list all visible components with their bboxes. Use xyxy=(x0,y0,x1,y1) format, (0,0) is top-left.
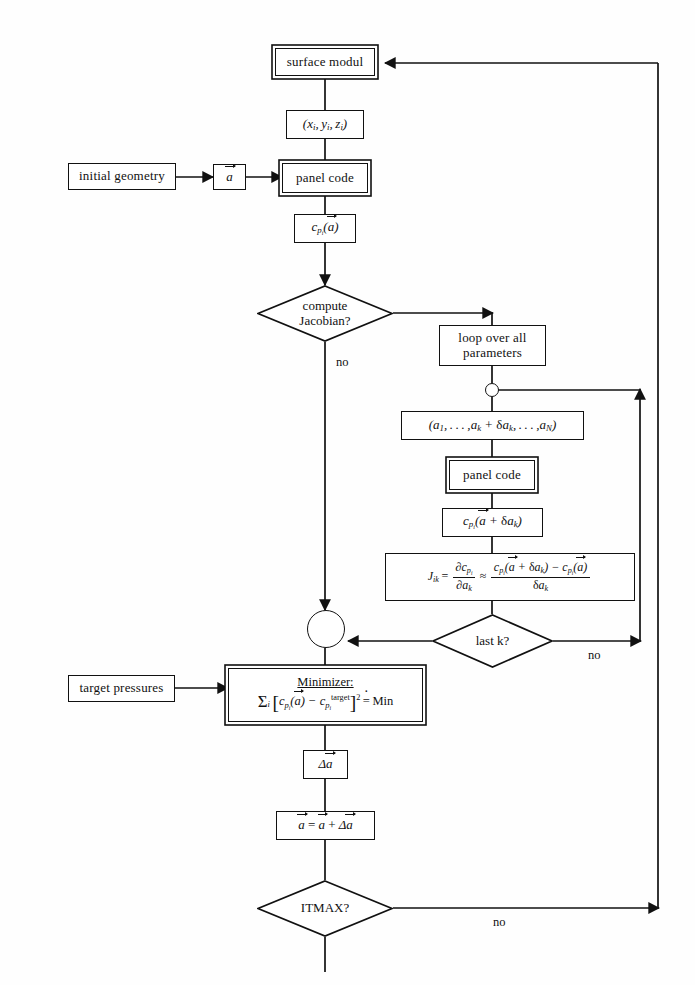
node-compute-jacobian-decision[interactable]: compute Jacobian? xyxy=(257,285,393,342)
edge-label-itmax-no: no xyxy=(493,915,506,930)
minimizer-title: Minimizer: xyxy=(297,675,353,689)
update-design-vector-formula: a = a + Δa xyxy=(298,818,353,833)
node-update-design-vector[interactable]: a = a + Δa xyxy=(276,811,375,840)
jacobian-formula-expression: Jik = ∂cpi∂ak ≈ cpi(a + δak) − cpi(a)δak xyxy=(428,561,593,594)
compute-jacobian-label: compute Jacobian? xyxy=(257,285,393,342)
pressure-coefficients-formula: cpi(a) xyxy=(311,220,338,237)
node-perturbed-parameter-vector[interactable]: (a1, . . . ,ak + δak, . . . ,aN) xyxy=(401,411,584,440)
node-surface-coordinates[interactable]: (xi, yi, zi) xyxy=(286,110,364,139)
perturbed-pressure-coefficients-formula: cpi(a + δak) xyxy=(463,514,522,531)
junction-loop-entry xyxy=(485,383,499,397)
node-minimizer[interactable]: Minimizer: Σi [cpi(a) − cpitarget]2 = Mi… xyxy=(228,668,423,722)
minimizer-content: Minimizer: Σi [cpi(a) − cpitarget]2 = Mi… xyxy=(258,675,393,715)
compute-jacobian-line1: compute xyxy=(303,299,348,314)
edge-label-last-k-no: no xyxy=(588,648,601,663)
node-initial-geometry[interactable]: initial geometry xyxy=(68,163,176,190)
target-pressures-label: target pressures xyxy=(74,681,168,696)
node-jacobian-formula[interactable]: Jik = ∂cpi∂ak ≈ cpi(a + δak) − cpi(a)δak xyxy=(385,553,635,601)
node-last-k-decision[interactable]: last k? xyxy=(432,614,553,668)
last-k-label: last k? xyxy=(432,614,553,668)
surface-coordinates-formula: (xi, yi, zi) xyxy=(303,117,347,133)
node-panel-code-secondary[interactable]: panel code xyxy=(449,460,535,490)
perturbed-parameter-vector-formula: (a1, . . . ,ak + δak, . . . ,aN) xyxy=(429,418,557,434)
edge-label-jacobian-no: no xyxy=(336,355,349,370)
junction-merge-paths xyxy=(307,610,345,648)
initial-geometry-label: initial geometry xyxy=(74,169,170,184)
panel-code-secondary-label: panel code xyxy=(458,468,526,483)
last-k-line1: last k? xyxy=(476,634,510,649)
loop-over-parameters-label: loop over all parameters xyxy=(453,331,531,361)
design-vector-a-symbol: a xyxy=(226,170,233,185)
minimizer-formula-expression: Σi [cpi(a) − cpitarget]2 = Min xyxy=(258,692,393,715)
itmax-label: ITMAX? xyxy=(257,880,393,937)
node-perturbed-pressure-coefficients[interactable]: cpi(a + δak) xyxy=(442,508,543,537)
delta-a-symbol: Δa xyxy=(318,757,332,772)
flowchart-canvas: surface modul (xi, yi, zi) initial geome… xyxy=(0,0,695,985)
loop-over-parameters-line2: parameters xyxy=(463,345,522,360)
loop-over-parameters-line1: loop over all xyxy=(458,330,526,345)
compute-jacobian-line2: Jacobian? xyxy=(299,314,350,329)
node-target-pressures[interactable]: target pressures xyxy=(68,675,175,702)
node-loop-over-parameters[interactable]: loop over all parameters xyxy=(439,325,546,366)
surface-modul-label: surface modul xyxy=(282,55,369,70)
itmax-line1: ITMAX? xyxy=(301,901,349,916)
node-panel-code-primary[interactable]: panel code xyxy=(282,163,368,193)
node-surface-modul[interactable]: surface modul xyxy=(275,48,375,76)
node-delta-a[interactable]: Δa xyxy=(303,750,348,779)
node-itmax-decision[interactable]: ITMAX? xyxy=(257,880,393,937)
node-pressure-coefficients[interactable]: cpi(a) xyxy=(294,214,356,243)
node-design-vector-a[interactable]: a xyxy=(213,164,246,190)
panel-code-primary-label: panel code xyxy=(291,171,359,186)
